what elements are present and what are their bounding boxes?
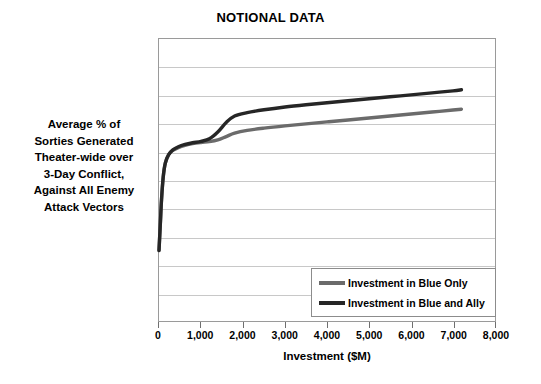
series-line — [159, 109, 461, 250]
x-axis-tick-label: 2,000 — [229, 329, 255, 341]
legend-item: Investment in Blue and Ally — [312, 293, 495, 313]
legend-color-swatch — [319, 301, 345, 305]
x-axis-tick — [243, 322, 244, 328]
x-axis-tick-label: 0 — [155, 329, 161, 341]
x-axis-tick-labels: 01,0002,0003,0004,0005,0006,0007,0008,00… — [158, 329, 496, 345]
y-axis-title-line: 3-Day Conflict, — [14, 166, 154, 183]
chart-legend: Investment in Blue OnlyInvestment in Blu… — [311, 268, 496, 317]
x-axis-tick-label: 1,000 — [187, 329, 213, 341]
y-axis-title: Average % ofSorties GeneratedTheater-wid… — [14, 116, 154, 215]
x-axis-tick — [158, 322, 159, 328]
x-axis-tick — [369, 322, 370, 328]
legend-label: Investment in Blue Only — [348, 277, 468, 289]
x-axis-tick — [495, 322, 496, 328]
x-axis-tick — [327, 322, 328, 328]
legend-item: Investment in Blue Only — [312, 273, 495, 293]
x-axis-tick-label: 5,000 — [356, 329, 382, 341]
y-axis-title-line: Theater-wide over — [14, 149, 154, 166]
x-axis-tick-label: 4,000 — [314, 329, 340, 341]
x-axis-tick — [285, 322, 286, 328]
y-axis-title-line: Against All Enemy — [14, 182, 154, 199]
x-axis-tick-label: 7,000 — [441, 329, 467, 341]
x-axis-ticks — [158, 322, 496, 328]
legend-color-swatch — [319, 281, 345, 285]
x-axis-tick-label: 8,000 — [483, 329, 509, 341]
x-axis-tick-label: 3,000 — [272, 329, 298, 341]
y-axis-title-line: Sorties Generated — [14, 133, 154, 150]
x-axis-tick — [412, 322, 413, 328]
x-axis-tick — [454, 322, 455, 328]
legend-label: Investment in Blue and Ally — [348, 297, 485, 309]
chart-title: NOTIONAL DATA — [0, 10, 541, 25]
x-axis-title: Investment ($M) — [158, 350, 496, 362]
x-axis-tick — [200, 322, 201, 328]
y-axis-title-line: Attack Vectors — [14, 199, 154, 216]
x-axis-tick-label: 6,000 — [398, 329, 424, 341]
y-axis-title-line: Average % of — [14, 116, 154, 133]
